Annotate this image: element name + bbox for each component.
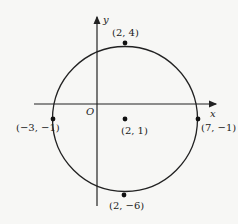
point-center bbox=[123, 117, 128, 122]
point-right bbox=[196, 117, 201, 122]
label-right: (7, −1) bbox=[201, 123, 236, 133]
label-center: (2, 1) bbox=[121, 126, 148, 136]
x-axis-label: x bbox=[210, 109, 216, 119]
point-left bbox=[51, 117, 56, 122]
point-bottom bbox=[122, 193, 127, 198]
origin-label: O bbox=[86, 107, 94, 117]
label-top: (2, 4) bbox=[112, 28, 139, 38]
y-axis-label: y bbox=[103, 15, 109, 25]
label-left: (−3, −1) bbox=[16, 123, 60, 133]
point-top bbox=[123, 41, 128, 46]
label-bottom: (2, −6) bbox=[109, 201, 144, 211]
circle-diagram: y x O (2, 4) (−3, −1) (7, −1) (2, 1) (2,… bbox=[0, 0, 238, 224]
